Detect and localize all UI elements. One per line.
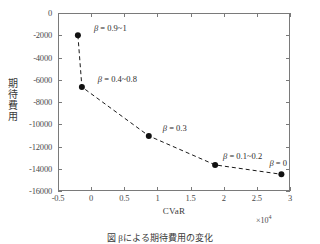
x-axis-multiplier: ×104 bbox=[256, 214, 272, 225]
x-tick-mark bbox=[91, 13, 92, 17]
x-tick-mark bbox=[91, 187, 92, 191]
y-tick-label: -12000 bbox=[0, 142, 52, 152]
y-tick-mark bbox=[58, 58, 62, 59]
x-tick-mark bbox=[157, 187, 158, 191]
x-tick-mark bbox=[58, 187, 59, 191]
x-tick-mark bbox=[157, 13, 158, 17]
x-axis-multiplier-base: ×10 bbox=[256, 216, 269, 225]
point-annotation: β = 0 bbox=[269, 158, 287, 168]
y-tick-mark bbox=[58, 80, 62, 81]
y-tick-mark bbox=[286, 35, 290, 36]
x-tick-mark bbox=[257, 187, 258, 191]
y-tick-label: -6000 bbox=[0, 75, 52, 85]
point-annotation: β = 0.9~1 bbox=[94, 23, 127, 33]
y-tick-mark bbox=[58, 191, 62, 192]
y-tick-label: -10000 bbox=[0, 119, 52, 129]
y-tick-mark bbox=[58, 147, 62, 148]
x-axis-multiplier-exponent: 4 bbox=[269, 214, 272, 220]
y-tick-mark bbox=[286, 124, 290, 125]
x-tick-mark bbox=[124, 187, 125, 191]
y-tick-mark bbox=[286, 169, 290, 170]
y-tick-mark bbox=[58, 124, 62, 125]
y-tick-label: 0 bbox=[0, 8, 52, 18]
x-tick-mark bbox=[191, 13, 192, 17]
x-tick-mark bbox=[191, 187, 192, 191]
y-tick-mark bbox=[286, 58, 290, 59]
y-tick-label: -14000 bbox=[0, 164, 52, 174]
x-tick-mark bbox=[257, 13, 258, 17]
point-annotation: β = 0.3 bbox=[163, 123, 187, 133]
x-tick-mark bbox=[124, 13, 125, 17]
plot-area bbox=[58, 13, 290, 191]
y-tick-mark bbox=[286, 80, 290, 81]
x-tick-mark bbox=[224, 13, 225, 17]
y-tick-label: -8000 bbox=[0, 97, 52, 107]
point-annotation: β = 0.4~0.8 bbox=[98, 74, 137, 84]
y-tick-label: -4000 bbox=[0, 53, 52, 63]
y-tick-mark bbox=[286, 191, 290, 192]
x-tick-label: 3 bbox=[270, 193, 310, 203]
y-tick-mark bbox=[58, 102, 62, 103]
y-tick-mark bbox=[286, 102, 290, 103]
y-tick-mark bbox=[58, 35, 62, 36]
x-tick-mark bbox=[224, 187, 225, 191]
y-tick-label: -2000 bbox=[0, 30, 52, 40]
y-tick-mark bbox=[58, 169, 62, 170]
x-tick-mark bbox=[290, 187, 291, 191]
figure-caption: 図 βによる期待費用の変化 bbox=[0, 231, 320, 244]
point-annotation: β = 0.1~0.2 bbox=[223, 151, 262, 161]
x-tick-mark bbox=[290, 13, 291, 17]
x-tick-mark bbox=[58, 13, 59, 17]
y-tick-mark bbox=[286, 147, 290, 148]
